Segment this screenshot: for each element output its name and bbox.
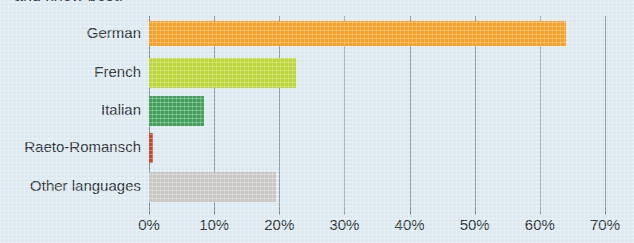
plot-area	[149, 16, 605, 208]
x-tick-label: 50%	[460, 216, 490, 233]
tickmark-10%	[214, 208, 215, 215]
bar-other-languages	[149, 172, 276, 202]
x-tick-label: 30%	[329, 216, 359, 233]
x-tick-label: 60%	[525, 216, 555, 233]
category-axis-labels: GermanFrenchItalianRaeto-RomanschOther l…	[0, 16, 141, 208]
caption-text: and know best.	[14, 0, 123, 5]
category-label-german: German	[87, 24, 141, 41]
clipped-caption: and know best.	[0, 0, 634, 13]
tickmark-40%	[410, 208, 411, 215]
x-tick-label: 0%	[138, 216, 160, 233]
x-tick-label: 20%	[264, 216, 294, 233]
category-label-other-languages: Other languages	[30, 177, 141, 194]
bar-italian	[149, 96, 204, 126]
tickmark-50%	[475, 208, 476, 215]
bar-german	[149, 21, 566, 46]
tickmark-60%	[540, 208, 541, 215]
category-label-italian: Italian	[101, 101, 141, 118]
x-tick-label: 40%	[395, 216, 425, 233]
bar-raeto-romansch	[149, 133, 153, 163]
bar-french	[149, 58, 296, 88]
category-label-raeto-romansch: Raeto-Romansch	[24, 138, 141, 155]
language-share-bar-chart: and know best. GermanFrenchItalianRaeto-…	[0, 0, 634, 243]
x-tick-label: 70%	[590, 216, 620, 233]
tickmark-20%	[279, 208, 280, 215]
tickmark-70%	[605, 208, 606, 215]
value-axis-labels: 0%10%20%30%40%50%60%70%	[0, 216, 634, 240]
tickmark-0%	[149, 208, 150, 215]
x-tick-label: 10%	[199, 216, 229, 233]
tickmark-30%	[344, 208, 345, 215]
category-label-french: French	[94, 63, 141, 80]
gridline-70%	[605, 16, 606, 208]
